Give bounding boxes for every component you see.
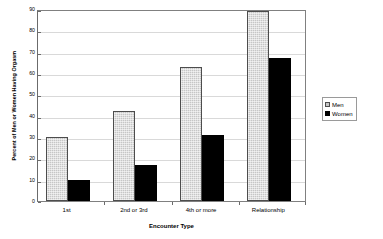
chart-legend: MenWomen — [322, 97, 357, 121]
x-axis-tick-label: 4th or more — [186, 207, 217, 213]
plot-area — [37, 10, 306, 202]
bar-group — [173, 11, 240, 201]
bar-series-container — [38, 11, 305, 201]
x-axis-tick-label: Relationship — [252, 207, 285, 213]
legend-item-men: Men — [325, 100, 353, 109]
bar-group — [38, 11, 105, 201]
bar-group — [105, 11, 172, 201]
y-axis-tick-label: 40 — [29, 114, 35, 119]
legend-label: Men — [332, 102, 344, 108]
y-axis-tick-label: 20 — [29, 157, 35, 162]
bar-men-2 — [180, 67, 202, 201]
y-axis-tick-label: 80 — [29, 29, 35, 34]
y-axis-tick-label: 30 — [29, 135, 35, 140]
bar-men-3 — [247, 11, 269, 201]
bar-chart-figure: Percent of Men or Women Having Orgasm 01… — [0, 0, 383, 239]
y-axis-tick-label: 60 — [29, 71, 35, 76]
legend-swatch-men-icon — [325, 102, 330, 107]
legend-label: Women — [332, 111, 353, 117]
bar-women-1 — [135, 165, 157, 201]
x-axis-tick-label: 1st — [63, 207, 71, 213]
bar-group — [240, 11, 307, 201]
y-axis-tick-labels: 0102030405060708090 — [19, 10, 37, 202]
y-axis-tick-label: 50 — [29, 93, 35, 98]
y-axis-tick-label: 70 — [29, 50, 35, 55]
bar-women-0 — [68, 180, 90, 201]
x-axis-tick-mark — [305, 202, 306, 205]
x-axis-tick-labels: 1st2nd or 3rd4th or moreRelationship — [37, 207, 306, 217]
bar-women-3 — [269, 58, 291, 201]
y-axis-tick-label: 10 — [29, 178, 35, 183]
y-axis-tick-label: 90 — [29, 7, 35, 12]
legend-item-women: Women — [325, 109, 353, 118]
x-axis-tick-marks — [37, 202, 306, 205]
x-axis-tick-mark — [104, 202, 105, 205]
y-axis-title-text: Percent of Men or Women Having Orgasm — [12, 51, 17, 161]
x-axis-tick-mark — [239, 202, 240, 205]
x-axis-title: Encounter Type — [37, 223, 306, 229]
x-axis-tick-mark — [172, 202, 173, 205]
y-axis-tick-label: 0 — [32, 199, 35, 204]
bar-men-1 — [113, 111, 135, 201]
bar-men-0 — [46, 137, 68, 201]
legend-swatch-women-icon — [325, 111, 330, 116]
x-axis-tick-label: 2nd or 3rd — [120, 207, 147, 213]
bar-women-2 — [202, 135, 224, 201]
